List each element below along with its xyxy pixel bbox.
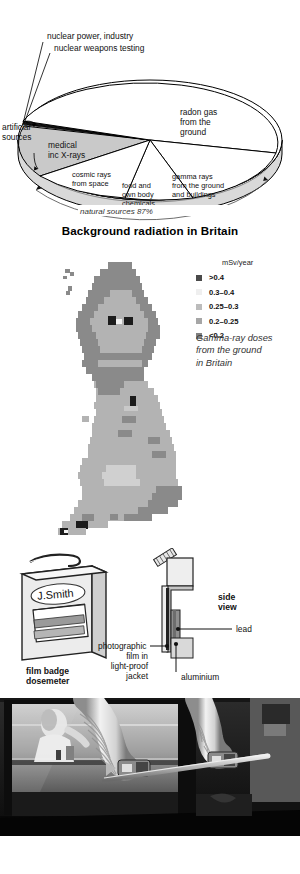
legend-swatch-0-25-0-3	[196, 304, 202, 310]
pie-chart-svg: radon gas from the ground medical inc X-…	[0, 22, 300, 242]
label-gamma-line1: gamma rays	[172, 172, 213, 181]
callout-natural-sources: natural sources 87%	[80, 207, 153, 216]
map-figure-caption: Gamma-ray doses from the ground in Brita…	[196, 332, 300, 369]
lead-leader-line	[176, 627, 232, 631]
photographic-film-strip	[166, 588, 169, 650]
film-badge-front-view: J.Smith	[22, 555, 106, 660]
label-medical-line1: medical	[48, 140, 77, 150]
label-food-line1: food and	[122, 181, 151, 190]
pie-figure-caption: Background radiation in Britain	[0, 224, 300, 237]
legend-swatch-0-2-0-25	[196, 318, 202, 324]
legend-swatch-gt-0-4	[196, 275, 202, 281]
legend-label-0-2-0-25: 0.2–0.25	[209, 317, 239, 326]
map-caption-line3: in Britain	[196, 357, 300, 369]
glovebox-manipulator-photo	[0, 698, 300, 836]
label-gamma-line3: and buildings	[172, 190, 216, 199]
callout-artificial-line1: artificial	[2, 122, 31, 132]
legend-title: mSv/year	[222, 258, 296, 267]
side-view-label-line2: view	[218, 602, 237, 612]
badge-front-label-line1: film badge	[26, 666, 69, 676]
callout-nuclear-weapons: nuclear weapons testing	[54, 43, 145, 53]
badge-front-label-line2: dosemeter	[26, 676, 70, 686]
background-radiation-pie-figure: radon gas from the ground medical inc X-…	[0, 22, 300, 242]
label-food-line2: own body	[122, 190, 154, 199]
aluminium-block	[171, 638, 193, 658]
lead-label: lead	[236, 624, 252, 634]
photographic-film-leader-line	[150, 644, 169, 648]
label-radon-line1: radon gas	[180, 107, 217, 117]
film-label-line3: light-proof	[111, 661, 149, 671]
map-caption-line1: Gamma-ray doses	[196, 332, 300, 344]
film-label-line2: film in	[126, 651, 148, 661]
film-badge-dosemeter-figure: J.Smith film badge dosemeter	[0, 548, 300, 698]
label-radon-line3: ground	[180, 127, 206, 137]
label-cosmic-line1: cosmic rays	[72, 170, 111, 179]
legend-label-0-25-0-3: 0.25–0.3	[209, 302, 239, 311]
callout-nuclear-power: nuclear power, industry	[47, 31, 134, 41]
map-blocks	[58, 262, 182, 535]
britain-choropleth-map	[52, 256, 192, 556]
legend-label-gt-0-4: >0.4	[209, 273, 224, 282]
legend-swatch-0-3-0-4	[196, 289, 202, 295]
film-label-line1: photographic	[98, 641, 146, 651]
label-radon-line2: from the	[180, 117, 211, 127]
photo-svg	[0, 698, 300, 836]
map-caption-line2: from the ground	[196, 344, 300, 356]
film-badge-side-view	[154, 548, 193, 658]
film-label-line4: jacket	[125, 671, 149, 681]
aluminium-label: aluminium	[181, 672, 219, 682]
legend-item: 0.2–0.25	[196, 316, 296, 327]
gamma-dose-map-figure: mSv/year >0.4 0.3–0.4 0.25–0.3 0.2–0.25 …	[0, 252, 300, 552]
callout-artificial-line2: sources	[2, 132, 31, 142]
film-badge-diagram-svg: J.Smith film badge dosemeter	[0, 548, 300, 698]
legend-item: 0.25–0.3	[196, 301, 296, 312]
legend-item: >0.4	[196, 272, 296, 283]
legend-label-0-3-0-4: 0.3–0.4	[209, 288, 234, 297]
label-gamma-line2: from the ground	[172, 181, 224, 190]
side-view-label-line1: side	[218, 592, 235, 602]
label-cosmic-line2: from space	[72, 179, 109, 188]
label-medical-line2: inc X-rays	[48, 150, 85, 160]
legend-item: 0.3–0.4	[196, 287, 296, 298]
